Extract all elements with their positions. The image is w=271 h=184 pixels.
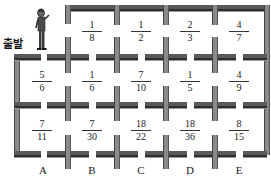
post: [163, 86, 169, 121]
denominator: 36: [175, 132, 205, 142]
numerator: 7: [126, 70, 156, 80]
denominator: 10: [126, 83, 156, 93]
denominator: 6: [27, 83, 57, 93]
numerator: 2: [175, 20, 205, 30]
post: [114, 135, 120, 169]
fraction-cell: 710: [126, 70, 156, 93]
exit-label-c: C: [131, 164, 151, 176]
numerator: 5: [27, 70, 57, 80]
wall-segment: [14, 102, 41, 108]
fraction-cell: 12: [126, 20, 156, 43]
numerator: 18: [175, 119, 205, 129]
fraction-cell: 49: [224, 70, 254, 93]
post: [114, 5, 120, 25]
fraction-cell: 56: [27, 70, 57, 93]
fraction-cell: 23: [175, 20, 205, 43]
numerator: 8: [224, 119, 254, 129]
fraction-cell: 47: [224, 20, 254, 43]
denominator: 9: [224, 83, 254, 93]
exit-label-d: D: [180, 164, 200, 176]
denominator: 15: [224, 132, 254, 142]
post: [212, 135, 218, 169]
fraction-cell: 730: [77, 119, 107, 142]
fraction-cell: 1822: [126, 119, 156, 142]
exit-label-e: E: [229, 164, 249, 176]
wall-segment: [243, 151, 267, 157]
numerator: 7: [77, 119, 107, 129]
post: [163, 135, 169, 169]
numerator: 18: [126, 119, 156, 129]
wall-segment: [14, 151, 41, 157]
numerator: 1: [126, 20, 156, 30]
post: [114, 37, 120, 73]
wall-segment: [243, 54, 267, 60]
post: [65, 86, 71, 121]
denominator: 8: [77, 33, 107, 43]
numerator: 1: [175, 70, 205, 80]
wall-segment: [243, 102, 267, 108]
denominator: 11: [27, 132, 57, 142]
exit-label-a: A: [33, 164, 53, 176]
numerator: 1: [77, 20, 107, 30]
fraction-maze: 출발 18 12 23 47: [0, 0, 271, 184]
numerator: 4: [224, 20, 254, 30]
numerator: 1: [77, 70, 107, 80]
numerator: 4: [224, 70, 254, 80]
denominator: 22: [126, 132, 156, 142]
fraction-cell: 18: [77, 20, 107, 43]
post: [163, 37, 169, 73]
post: [212, 5, 218, 25]
post: [212, 37, 218, 73]
numerator: 7: [27, 119, 57, 129]
post: [163, 5, 169, 25]
denominator: 5: [175, 83, 205, 93]
post: [65, 37, 71, 73]
post: [65, 135, 71, 169]
fraction-cell: 1836: [175, 119, 205, 142]
start-label: 출발: [3, 35, 22, 51]
denominator: 2: [126, 33, 156, 43]
right-wall: [264, 5, 270, 155]
post: [212, 86, 218, 121]
denominator: 6: [77, 83, 107, 93]
fraction-cell: 16: [77, 70, 107, 93]
exit-label-b: B: [82, 164, 102, 176]
fraction-cell: 815: [224, 119, 254, 142]
post: [114, 86, 120, 121]
fraction-cell: 15: [175, 70, 205, 93]
denominator: 30: [77, 132, 107, 142]
fraction-cell: 711: [27, 119, 57, 142]
denominator: 3: [175, 33, 205, 43]
wall-segment: [14, 54, 41, 60]
top-left-stub: [65, 5, 71, 24]
denominator: 7: [224, 33, 254, 43]
person-icon: [33, 8, 51, 52]
